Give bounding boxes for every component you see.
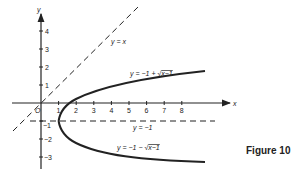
x-tick-label: 8	[180, 107, 184, 114]
y-tick-label: 1	[45, 82, 49, 89]
y-tick-label: 4	[45, 28, 49, 35]
x-tick-label: 7	[162, 107, 166, 114]
x-tick-label: 4	[109, 107, 113, 114]
x-tick-label: 2	[74, 107, 78, 114]
x-tick-label: 6	[145, 107, 149, 114]
y-tick-label: −3	[44, 154, 52, 161]
x-tick-label: 3	[92, 107, 96, 114]
svg-text:y = −1 − √x−1: y = −1 − √x−1	[116, 144, 160, 152]
label-lower-curve: y = −1 − √x−1	[116, 144, 160, 152]
label-y-equals-x: y = x	[110, 38, 126, 46]
curve-lower-branch	[59, 121, 205, 162]
y-tick-label: −1	[43, 122, 51, 129]
parabola-diagram: 1 2 3 4 5 6 7 8 1 2 3 4 −1 −2 −3 x y O y…	[0, 0, 301, 174]
y-axis-label: y	[36, 6, 41, 14]
y-tick-label: 3	[45, 46, 49, 53]
y-tick-label: −2	[44, 136, 52, 143]
x-axis-label: x	[232, 100, 237, 107]
svg-text:y = −1 + √x−1: y = −1 + √x−1	[129, 70, 173, 78]
label-upper-curve: y = −1 + √x−1	[129, 70, 173, 78]
label-y-equals-minus-1: y = −1	[132, 124, 153, 132]
figure-caption: Figure 10	[246, 145, 291, 156]
y-tick-label: 2	[45, 64, 49, 71]
x-tick-label: 1	[57, 107, 61, 114]
x-tick-label: 5	[127, 107, 131, 114]
